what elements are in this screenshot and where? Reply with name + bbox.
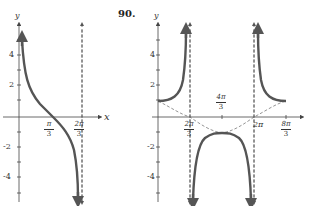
- left-curve: [22, 40, 78, 198]
- right-tick-m4: -4: [147, 173, 155, 181]
- right-graph: [152, 24, 302, 204]
- right-y-label: y: [154, 12, 159, 20]
- left-tick-m4: -4: [3, 173, 11, 181]
- right-xtick-2pi3: 2π3: [184, 121, 194, 138]
- right-tick-m2: -2: [147, 143, 155, 151]
- left-tick-4: 4: [9, 51, 14, 59]
- branch-3: [258, 32, 286, 101]
- branch-1: [158, 32, 186, 101]
- left-xtick-pi3: π3: [44, 121, 54, 138]
- left-x-label: x: [104, 112, 110, 122]
- left-graph: [3, 24, 100, 203]
- left-tick-m2: -2: [3, 143, 11, 151]
- right-xtick-2pi: 2π: [253, 121, 263, 129]
- right-tick-4: 4: [150, 51, 155, 59]
- right-tick-2: 2: [150, 81, 155, 89]
- right-xtick-4pi3: 4π3: [216, 94, 226, 111]
- branch-2: [193, 133, 251, 200]
- left-tick-2: 2: [9, 81, 14, 89]
- left-y-label: y: [15, 12, 20, 20]
- left-xtick-2pi3: 2π3: [74, 121, 84, 138]
- problem-number: 90.: [118, 8, 135, 19]
- right-xtick-8pi3: 8π3: [281, 121, 291, 138]
